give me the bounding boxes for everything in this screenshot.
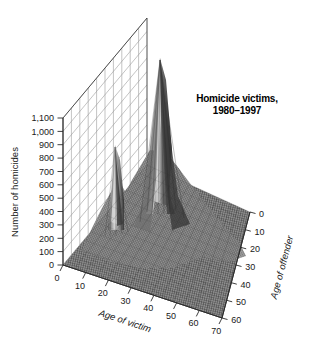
surface-plot: 0 100 200 300 400 500 600 700 800 900 1,…: [0, 0, 316, 361]
z-tick-700: 700: [39, 167, 54, 177]
z-tick-800: 800: [39, 153, 54, 163]
y-tick-0: 0: [259, 209, 264, 219]
z-tick-600: 600: [39, 180, 54, 190]
chart-title: Homicide victims, 1980–1997: [196, 93, 278, 116]
x-tick-50: 50: [166, 311, 176, 321]
y-tick-60: 60: [231, 315, 241, 325]
y-tick-40: 40: [241, 280, 251, 290]
y-tick-10: 10: [255, 227, 265, 237]
x-tick-0: 0: [54, 273, 59, 283]
figure-container: 0 100 200 300 400 500 600 700 800 900 1,…: [0, 0, 316, 361]
y-tick-30: 30: [245, 262, 255, 272]
x-tick-70: 70: [211, 326, 221, 336]
x-tick-40: 40: [143, 303, 153, 313]
z-tick-200: 200: [39, 234, 54, 244]
x-tick-60: 60: [189, 318, 199, 328]
z-tick-1000: 1,000: [31, 127, 54, 137]
y-tick-20: 20: [250, 244, 260, 254]
z-tick-1100: 1,100: [31, 113, 54, 123]
z-tick-0: 0: [49, 260, 54, 270]
z-tick-500: 500: [39, 193, 54, 203]
z-tick-400: 400: [39, 207, 54, 217]
x-tick-30: 30: [120, 296, 130, 306]
z-tick-900: 900: [39, 140, 54, 150]
chart-title-line1: Homicide victims,: [196, 93, 278, 104]
z-axis-title: Number of homicides: [9, 147, 20, 237]
z-tick-100: 100: [39, 247, 54, 257]
chart-title-line2: 1980–1997: [213, 105, 262, 116]
x-tick-20: 20: [98, 288, 108, 298]
z-tick-300: 300: [39, 220, 54, 230]
z-axis: 0 100 200 300 400 500 600 700 800 900 1,…: [9, 113, 63, 270]
y-tick-50: 50: [236, 297, 246, 307]
y-axis-title: Age of offender: [268, 233, 296, 300]
z-axis-ticks: [58, 118, 64, 265]
x-tick-10: 10: [75, 281, 85, 291]
